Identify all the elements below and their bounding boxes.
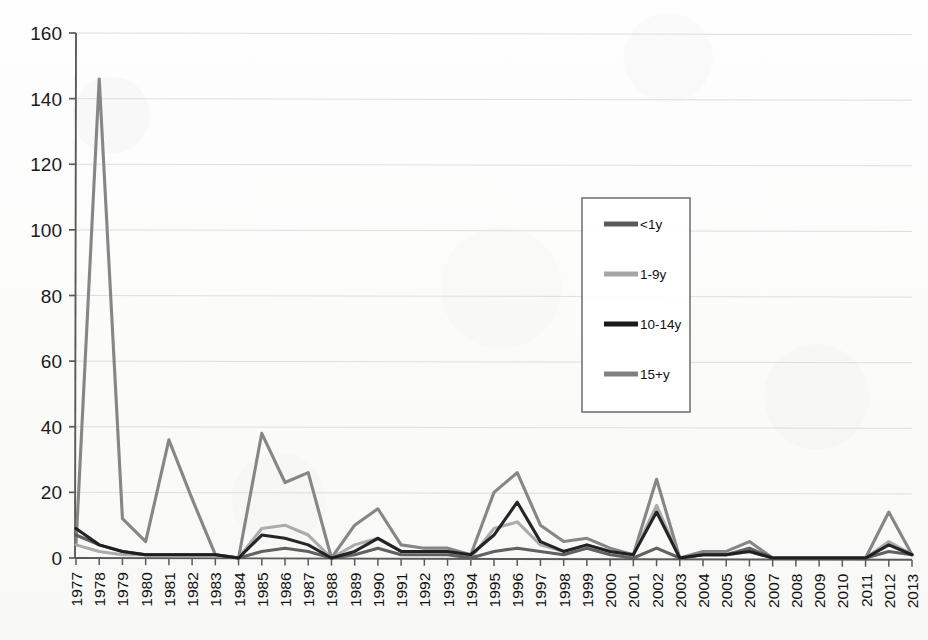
x-tick-label-2013: 2013 [904,574,921,608]
x-tick-label-2002: 2002 [649,573,666,607]
y-tick-label-160: 160 [30,23,62,44]
x-tick-label-2005: 2005 [718,573,735,607]
x-tick-label-1995: 1995 [486,573,503,607]
legend-box [582,198,690,412]
x-tick-label-1984: 1984 [231,572,248,607]
x-tick-label-1982: 1982 [184,572,201,606]
y-tick-label-60: 60 [41,351,62,372]
gridlines [76,33,912,560]
gridline-140 [76,99,912,101]
gridline-120 [76,164,912,166]
x-tick-label-2009: 2009 [811,574,828,608]
gridline-160 [76,33,912,35]
y-tick-label-140: 140 [30,89,62,110]
x-tick-label-2000: 2000 [602,573,619,608]
x-tick-label-1991: 1991 [393,573,410,607]
legend-label-2: 10-14y [640,317,682,332]
x-tick-label-1986: 1986 [277,572,294,606]
y-axis-tick-labels: 020406080100120140160 [30,23,62,569]
x-tick-label-1992: 1992 [416,573,433,607]
gridline-60 [76,361,912,363]
x-tick-label-1998: 1998 [556,573,573,607]
x-axis-tick-labels: 1977197819791980198119821983198419851986… [68,572,921,609]
x-tick-label-1978: 1978 [91,572,108,606]
x-tick-label-1981: 1981 [161,572,178,606]
x-tick-label-1987: 1987 [300,573,317,607]
legend-label-0: <1y [640,217,662,232]
x-tick-label-1985: 1985 [254,572,271,606]
x-tick-label-2006: 2006 [741,573,758,607]
y-axis [69,33,76,558]
x-tick-label-2007: 2007 [765,574,782,608]
gridline-40 [76,427,912,429]
x-tick-label-2001: 2001 [625,573,642,607]
x-tick-label-1980: 1980 [138,572,155,607]
x-tick-label-1994: 1994 [463,572,480,607]
x-tick-label-2011: 2011 [858,574,875,607]
data-series-group [76,79,912,558]
legend-label-1: 1-9y [640,267,667,282]
x-tick-label-2003: 2003 [672,573,689,607]
series-line-15-y [76,79,912,558]
line-chart: 020406080100120140160 197719781979198019… [0,0,928,640]
x-tick-label-2008: 2008 [788,574,805,608]
gridline-80 [76,296,912,298]
y-tick-label-80: 80 [41,286,62,307]
chart-legend: <1y1-9y10-14y15+y [582,198,690,412]
x-tick-label-1990: 1990 [370,572,387,607]
x-tick-label-1996: 1996 [509,573,526,607]
y-tick-label-20: 20 [41,482,62,503]
gridline-100 [76,230,912,232]
chart-canvas: 020406080100120140160 197719781979198019… [0,0,928,640]
y-tick-label-100: 100 [30,220,62,241]
legend-label-3: 15+y [640,367,670,382]
x-tick-label-1977: 1977 [68,572,85,606]
y-tick-label-0: 0 [51,548,62,569]
x-tick-label-2004: 2004 [695,573,712,608]
x-tick-label-2012: 2012 [881,574,898,608]
y-tick-label-40: 40 [41,417,62,438]
x-tick-label-2010: 2010 [834,573,851,608]
x-tick-label-1997: 1997 [532,573,549,607]
x-tick-label-1988: 1988 [323,573,340,607]
y-tick-label-120: 120 [30,154,62,175]
x-tick-label-1993: 1993 [440,573,457,607]
x-tick-label-1983: 1983 [207,572,224,606]
x-tick-label-1989: 1989 [347,573,364,607]
x-tick-label-1999: 1999 [579,573,596,607]
x-tick-label-1979: 1979 [114,572,131,606]
